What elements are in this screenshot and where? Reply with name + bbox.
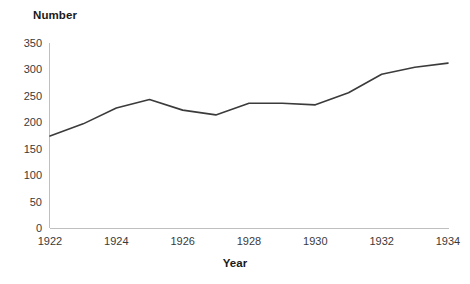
x-tick-label: 1928 — [224, 235, 274, 247]
line-chart: Number 350300250200150100500 19221924192… — [0, 0, 470, 284]
data-series-line — [50, 63, 448, 136]
x-tick-label: 1930 — [290, 235, 340, 247]
x-tick-label: 1922 — [25, 235, 75, 247]
y-tick-label: 300 — [8, 63, 42, 75]
x-tick-label: 1932 — [357, 235, 407, 247]
y-tick-label: 150 — [8, 143, 42, 155]
y-tick-label: 350 — [8, 37, 42, 49]
x-axis-title: Year — [0, 257, 470, 269]
y-tick-label: 50 — [8, 196, 42, 208]
x-tick-label: 1926 — [158, 235, 208, 247]
y-tick-label: 100 — [8, 169, 42, 181]
y-tick-label: 0 — [8, 222, 42, 234]
x-tick-label: 1924 — [91, 235, 141, 247]
y-tick-label: 200 — [8, 116, 42, 128]
x-tick-label: 1934 — [423, 235, 470, 247]
y-tick-label: 250 — [8, 90, 42, 102]
